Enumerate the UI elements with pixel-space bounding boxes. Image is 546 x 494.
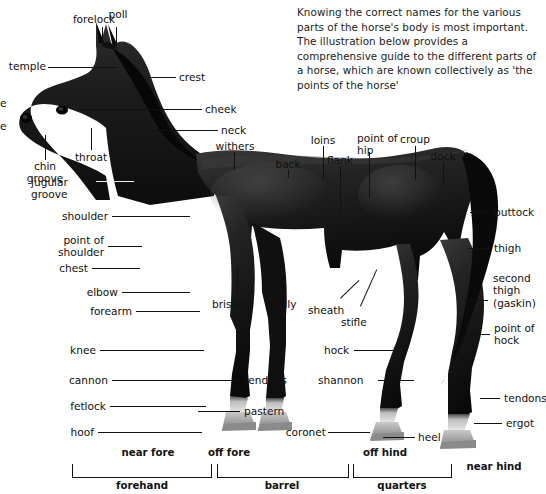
label-point-of-shoulder: point of shoulder: [34, 234, 104, 259]
label-muzzle-partial: e: [0, 120, 10, 132]
label-poll: poll: [100, 8, 136, 20]
leader-cannon: [112, 380, 204, 381]
label-near-fore: near fore: [110, 447, 186, 459]
label-thigh: thigh: [494, 242, 521, 254]
label-dock: dock: [423, 150, 463, 162]
leader-shannon: [378, 380, 414, 381]
label-shoulder: shoulder: [48, 210, 108, 222]
leader-point-of-hip: [369, 152, 370, 198]
label-chest: chest: [48, 262, 88, 274]
leader-brisket: [237, 268, 238, 296]
leader-chest: [92, 268, 140, 269]
leader-elbow: [122, 292, 190, 293]
label-throat: throat: [60, 151, 122, 163]
label-second-thigh: second thigh (gaskin): [493, 272, 536, 309]
label-hoof: hoof: [60, 426, 94, 438]
leader-forearm: [136, 311, 200, 312]
leader-crest: [148, 77, 176, 78]
leader-neck: [150, 130, 218, 131]
leader-cheek: [78, 109, 202, 110]
leader-heel: [383, 437, 415, 438]
label-belly: belly: [271, 298, 296, 310]
label-point-of-hock: point of hock: [494, 322, 535, 347]
label-ergot: ergot: [506, 417, 534, 429]
label-heel: heel: [418, 431, 441, 443]
label-back: back: [269, 158, 307, 170]
leader-throat: [91, 128, 92, 150]
leader-coronet: [328, 432, 370, 433]
leader-temple: [48, 67, 118, 68]
label-withers: withers: [207, 140, 263, 152]
label-elbow: elbow: [74, 286, 118, 298]
label-fetlock: fetlock: [58, 400, 106, 412]
leader-buttock: [470, 212, 490, 213]
label-temple: temple: [0, 60, 46, 72]
label-croup: croup: [393, 133, 437, 145]
leader-ergot: [474, 423, 502, 424]
label-tendons-fore: tendons: [244, 374, 287, 386]
label-neck: neck: [221, 124, 246, 136]
leader-knee: [100, 350, 204, 351]
leader-hock: [354, 350, 400, 351]
label-knee: knee: [58, 344, 96, 356]
region-label-forehand: forehand: [100, 480, 184, 492]
leader-hoof: [98, 432, 202, 433]
leader-second-thigh: [464, 300, 488, 301]
bracket-barrel: [217, 464, 349, 478]
label-stifle: stifle: [341, 316, 367, 328]
label-flank: flank: [320, 154, 360, 166]
leader-dock: [443, 162, 444, 186]
label-brisket: brisket: [212, 298, 248, 310]
leader-pastern: [198, 411, 240, 412]
label-shannon: shannon: [318, 374, 363, 386]
leader-chin-groove: [45, 135, 46, 160]
label-tendons-hind: tendons: [504, 392, 546, 404]
region-label-barrel: barrel: [249, 480, 315, 492]
label-cheek: cheek: [205, 103, 237, 115]
leader-shoulder: [112, 216, 190, 217]
leader-poll: [116, 27, 117, 51]
leader-forelock: [102, 27, 103, 47]
leader-back: [288, 170, 289, 178]
horse-illustration: [0, 0, 546, 460]
label-pastern: pastern: [244, 405, 284, 417]
label-sheath: sheath: [308, 304, 344, 316]
label-buttock: buttock: [494, 206, 534, 218]
diagram-root: Knowing the correct names for the variou…: [0, 0, 546, 494]
leader-tendons-fore: [200, 380, 240, 381]
region-label-quarters: quarters: [368, 480, 436, 492]
leader-croup: [415, 146, 416, 180]
leader-point-of-shoulder: [108, 246, 142, 247]
leader-thigh: [468, 248, 490, 249]
label-off-fore: off fore: [196, 447, 262, 459]
label-off-hind: off hind: [352, 447, 418, 459]
bracket-quarters: [353, 464, 452, 478]
label-jugular-groove: jugular groove: [31, 176, 97, 201]
label-nose-partial: e: [0, 97, 10, 109]
label-crest: crest: [179, 71, 205, 83]
leader-flank: [340, 166, 341, 214]
bracket-forehand: [72, 464, 212, 478]
label-near-hind: near hind: [456, 461, 532, 473]
label-hock: hock: [324, 344, 349, 356]
label-cannon: cannon: [56, 374, 108, 386]
label-forearm: forearm: [78, 305, 132, 317]
leader-withers: [234, 152, 235, 170]
leader-tendons-hind: [480, 398, 500, 399]
label-loins: loins: [302, 134, 344, 146]
label-coronet: coronet: [272, 426, 326, 438]
leader-point-of-hock: [468, 334, 490, 335]
leader-fetlock: [110, 406, 206, 407]
leader-jugular-groove: [96, 181, 134, 182]
